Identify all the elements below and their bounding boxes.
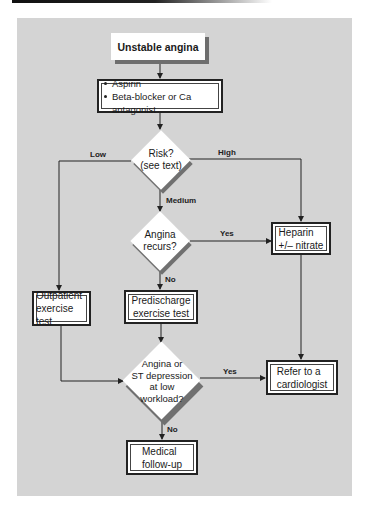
medical-text: Medicalfollow-up [138, 445, 186, 471]
label-high: High [218, 148, 236, 157]
start-box-unstable-angina: Unstable angina [111, 33, 205, 60]
risk-text: Risk?(see text) [131, 130, 191, 190]
predischarge-line1: Predischarge [132, 294, 191, 307]
recur-text: Anginarecurs? [130, 211, 190, 271]
st-line3: at low [131, 381, 192, 393]
recur-line1: Angina [143, 229, 176, 241]
heparin-line1: Heparin [279, 226, 324, 239]
refer-cardiologist-box: Refer to acardiologist [266, 360, 338, 395]
predischarge-line2: exercise test [132, 307, 191, 320]
label-low: Low [90, 150, 106, 159]
predischarge-box: Predischargeexercise test [124, 290, 198, 324]
treatment-item-aspirin: Aspirin [103, 77, 217, 90]
heparin-line2: +/– nitrate [279, 239, 324, 252]
label-yes-recur: Yes [220, 229, 234, 238]
st-line1: Angina or [131, 358, 192, 370]
risk-decision: Risk?(see text) [131, 130, 191, 190]
medical-line1: Medical [142, 445, 182, 458]
start-label: Unstable angina [117, 41, 198, 53]
st-text: Angina or ST depression at low workload? [123, 342, 201, 420]
st-line2: ST depression [131, 370, 192, 382]
label-medium: Medium [166, 196, 196, 205]
outpatient-box: Outpatientexercise test [32, 291, 91, 326]
st-line4: workload? [131, 393, 192, 405]
initial-treatment-box: Aspirin Beta-blocker or Ca antagonist [97, 79, 223, 113]
label-no-st: No [167, 425, 178, 434]
risk-line1: Risk? [140, 148, 182, 160]
medical-follow-up-box: Medicalfollow-up [126, 440, 198, 475]
treatment-list: Aspirin Beta-blocker or Ca antagonist [99, 77, 221, 116]
label-no-recur: No [165, 275, 176, 284]
refer-line2: cardiologist [277, 378, 328, 391]
predischarge-text: Predischargeexercise test [128, 294, 195, 320]
refer-text: Refer to acardiologist [273, 365, 332, 391]
heparin-box: Heparin+/– nitrate [271, 222, 331, 255]
heparin-text: Heparin+/– nitrate [275, 226, 328, 252]
refer-line1: Refer to a [277, 365, 328, 378]
st-depression-decision: Angina or ST depression at low workload? [123, 342, 201, 420]
medical-line2: follow-up [142, 458, 182, 471]
treatment-item-beta-blocker: Beta-blocker or Ca antagonist [103, 90, 217, 116]
risk-line2: (see text) [140, 160, 182, 172]
outpatient-line2: exercise test [36, 302, 87, 328]
outpatient-line1: Outpatient [36, 289, 87, 302]
label-yes-st: Yes [223, 367, 237, 376]
outpatient-text: Outpatientexercise test [34, 289, 89, 328]
recur-line2: recurs? [143, 241, 176, 253]
recur-decision: Anginarecurs? [130, 211, 190, 271]
